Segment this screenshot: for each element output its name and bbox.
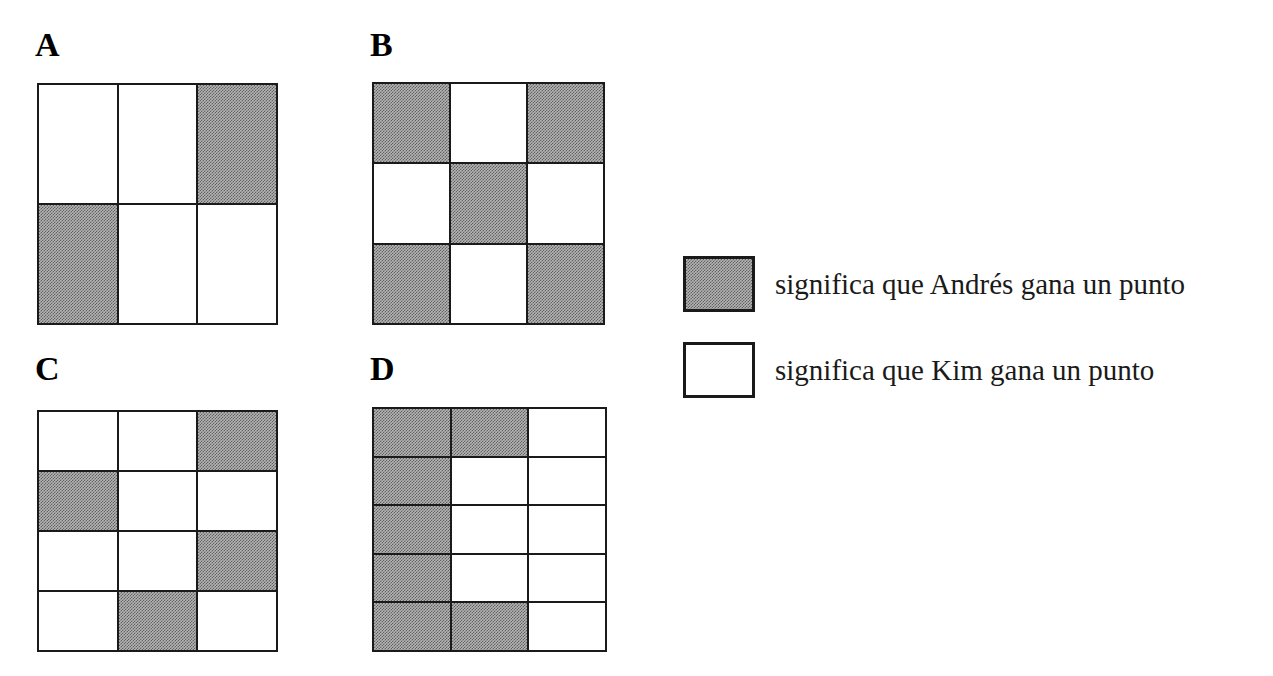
panel-label-c: C — [35, 352, 60, 386]
panel-label-d: D — [370, 352, 395, 386]
grid-cell-a-r2c1 — [39, 205, 117, 323]
grid-cell-c-r2c3 — [198, 472, 276, 530]
grid-c — [37, 410, 278, 652]
grid-cell-b-r1c1 — [374, 84, 449, 162]
legend-label-andres: significa que Andrés gana un punto — [775, 268, 1185, 300]
grid-cell-d-r5c2 — [452, 603, 528, 650]
grid-cell-d-r4c3 — [529, 555, 605, 602]
grid-cell-c-r1c1 — [39, 412, 117, 470]
grid-cell-d-r3c1 — [374, 506, 450, 553]
grid-cell-a-r1c3 — [198, 85, 276, 203]
grid-cell-a-r1c2 — [119, 85, 197, 203]
grid-cell-a-r2c2 — [119, 205, 197, 323]
grid-cell-b-r2c3 — [528, 164, 603, 242]
grid-b — [372, 82, 605, 325]
legend-swatch-grey-icon — [683, 256, 755, 312]
grid-cell-c-r3c3 — [198, 532, 276, 590]
legend-item-andres: significa que Andrés gana un punto — [683, 256, 1185, 312]
panel-label-b: B — [370, 28, 393, 62]
grid-cell-a-r1c1 — [39, 85, 117, 203]
grid-cell-d-r1c2 — [452, 409, 528, 456]
grid-cell-d-r4c2 — [452, 555, 528, 602]
grid-cell-b-r2c1 — [374, 164, 449, 242]
grid-cell-c-r2c1 — [39, 472, 117, 530]
grid-cell-b-r3c3 — [528, 245, 603, 323]
grid-cell-d-r1c1 — [374, 409, 450, 456]
grid-cell-a-r2c3 — [198, 205, 276, 323]
grid-d — [372, 407, 607, 652]
grid-cell-b-r1c3 — [528, 84, 603, 162]
grid-cell-c-r4c2 — [119, 592, 197, 650]
grid-cell-d-r2c3 — [529, 458, 605, 505]
grid-cell-c-r4c1 — [39, 592, 117, 650]
grid-cell-d-r5c1 — [374, 603, 450, 650]
grid-cell-d-r3c3 — [529, 506, 605, 553]
grid-cell-b-r2c2 — [451, 164, 526, 242]
grid-cell-b-r1c2 — [451, 84, 526, 162]
grid-cell-b-r3c1 — [374, 245, 449, 323]
legend-label-kim: significa que Kim gana un punto — [775, 354, 1154, 386]
grid-cell-c-r3c2 — [119, 532, 197, 590]
grid-cell-d-r2c1 — [374, 458, 450, 505]
grid-a — [37, 83, 278, 325]
grid-cell-d-r2c2 — [452, 458, 528, 505]
grid-cell-c-r2c2 — [119, 472, 197, 530]
grid-cell-d-r5c3 — [529, 603, 605, 650]
legend-swatch-white-icon — [683, 342, 755, 398]
grid-cell-d-r1c3 — [529, 409, 605, 456]
grid-cell-c-r1c2 — [119, 412, 197, 470]
panel-label-a: A — [35, 28, 60, 62]
grid-cell-d-r3c2 — [452, 506, 528, 553]
legend-item-kim: significa que Kim gana un punto — [683, 342, 1154, 398]
grid-cell-b-r3c2 — [451, 245, 526, 323]
grid-cell-c-r4c3 — [198, 592, 276, 650]
grid-cell-d-r4c1 — [374, 555, 450, 602]
grid-cell-c-r1c3 — [198, 412, 276, 470]
grid-cell-c-r3c1 — [39, 532, 117, 590]
